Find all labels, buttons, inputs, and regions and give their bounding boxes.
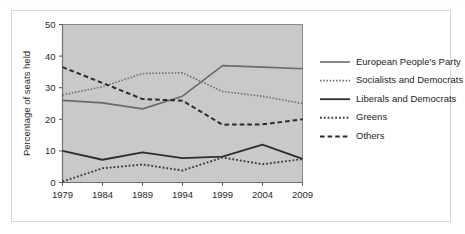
y-axis-title: Percentage of seats held <box>21 51 32 156</box>
y-tick-label: 20 <box>45 114 56 125</box>
legend-label: Others <box>356 130 385 141</box>
y-axis-ticks: 01020304050 <box>45 19 63 188</box>
y-tick-label: 10 <box>45 145 56 156</box>
legend-label: Liberals and Democrats <box>356 93 457 104</box>
legend-label: Socialists and Democrats <box>356 74 463 85</box>
y-tick-label: 0 <box>50 177 55 188</box>
x-tick-label: 2004 <box>252 189 273 200</box>
x-tick-label: 1989 <box>132 189 153 200</box>
x-tick-label: 1984 <box>92 189 113 200</box>
y-tick-label: 30 <box>45 82 56 93</box>
x-tick-label: 1999 <box>212 189 233 200</box>
x-tick-label: 2009 <box>292 189 313 200</box>
x-tick-label: 1994 <box>172 189 193 200</box>
legend-label: European People's Party <box>356 56 461 67</box>
legend-label: Greens <box>356 111 387 122</box>
y-tick-label: 50 <box>45 19 56 30</box>
y-tick-label: 40 <box>45 51 56 62</box>
line-chart: 01020304050 1979198419891994199920042009… <box>0 0 465 234</box>
figure: 01020304050 1979198419891994199920042009… <box>0 0 465 234</box>
x-axis-ticks: 1979198419891994199920042009 <box>52 183 313 200</box>
chart-legend: European People's PartySocialists and De… <box>320 56 463 141</box>
x-tick-label: 1979 <box>52 189 73 200</box>
y-axis-label: Percentage of seats held <box>21 51 32 156</box>
